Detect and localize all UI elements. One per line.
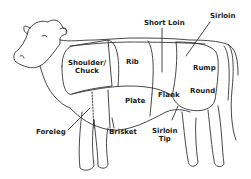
leader-brisket — [112, 118, 114, 128]
label-flank: Flank — [158, 91, 180, 99]
cow-throat — [40, 66, 70, 108]
cow-tail — [228, 44, 236, 140]
leader-foreleg — [68, 108, 90, 130]
label-sirloin-tip: Sirloin Tip — [152, 127, 177, 143]
label-shoulder-line1: Shoulder/ — [68, 59, 106, 67]
cow-ear-right — [60, 28, 67, 32]
label-brisket: Brisket — [109, 128, 137, 136]
brisket-divider — [108, 90, 110, 128]
label-rump: Rump — [193, 64, 216, 72]
label-rib: Rib — [126, 58, 139, 66]
cow-eye — [42, 35, 47, 37]
leader-sirloin — [186, 22, 210, 56]
label-sirloin: Sirloin — [210, 12, 235, 20]
plate-flank-divider — [150, 94, 152, 116]
front-leg-left — [79, 112, 94, 170]
hind-leg-right — [208, 106, 224, 167]
cow-head — [14, 20, 67, 68]
label-sirloin-tip-line2: Tip — [152, 135, 177, 143]
label-short-loin: Short Loin — [144, 19, 185, 27]
label-round: Round — [190, 87, 215, 95]
hind-leg-left — [182, 112, 198, 166]
sirloin-rump-divider — [172, 42, 177, 96]
rump-outline — [172, 42, 218, 111]
label-foreleg: Foreleg — [36, 128, 66, 136]
cow-nostril — [20, 56, 24, 58]
label-shoulder-line2: Chuck — [68, 67, 106, 75]
belly-upper-line — [72, 86, 172, 96]
shortloin-sirloin-divider — [148, 41, 153, 94]
label-shoulder-chuck: Shoulder/ Chuck — [68, 59, 106, 75]
leader-sirloin-tip — [172, 106, 178, 120]
front-leg-right — [94, 120, 108, 168]
label-plate: Plate — [125, 97, 145, 105]
cow-tail2 — [224, 46, 229, 100]
label-sirloin-tip-line1: Sirloin — [152, 127, 177, 135]
